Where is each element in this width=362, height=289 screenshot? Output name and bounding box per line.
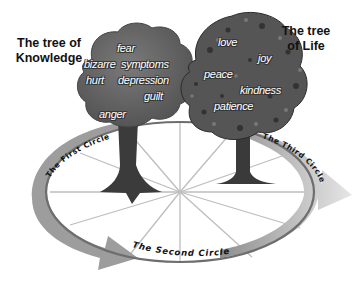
word-hurt: hurt [86,74,104,86]
tree-of-life-title: The tree of Life [276,24,336,54]
diagram: The First Circle The Third Circle The Se… [0,0,362,289]
word-fear: fear [117,42,135,54]
word-love: love [218,36,237,48]
second-circle-text: The Second Circle [131,239,230,258]
word-anger: anger [99,108,126,120]
word-peace: peace [204,68,232,80]
word-guilt: guilt [144,90,163,102]
word-depression: depression [118,74,169,86]
word-bizarre: bizarre [84,58,116,70]
word-patience: patience [214,100,253,112]
word-symptoms: symptoms [121,58,169,70]
second-circle-label: The Second Circle [131,239,230,258]
word-kindness: kindness [240,84,281,96]
word-joy: joy [258,52,271,64]
tree-of-knowledge-title: The tree of Knowledge [12,36,86,66]
